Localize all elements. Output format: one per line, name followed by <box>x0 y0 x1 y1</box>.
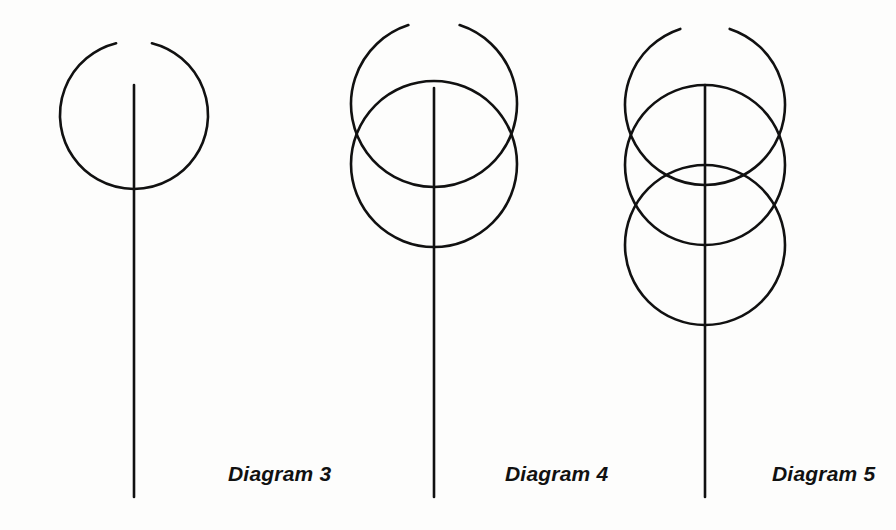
scanned-figure-page: Diagram 3 Diagram 4 Diagram 5 <box>0 0 896 530</box>
diagram-5 <box>625 29 785 497</box>
caption-diagram-4: Diagram 4 <box>505 462 608 486</box>
caption-diagram-5: Diagram 5 <box>772 462 875 486</box>
diagram-figure-canvas <box>0 0 896 530</box>
diagram-shapes-group <box>60 25 785 497</box>
diagram-4 <box>351 25 517 497</box>
caption-diagram-3: Diagram 3 <box>228 462 331 486</box>
diagram-3 <box>60 43 208 497</box>
